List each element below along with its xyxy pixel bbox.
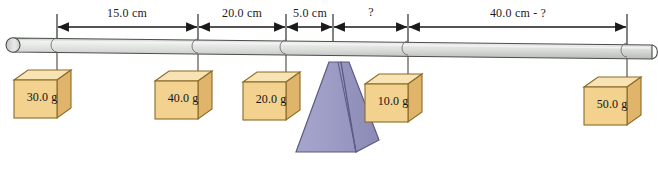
dimension-label-remainder: 40.0 cm - ? [490,6,546,21]
dimension-label-5cm: 5.0 cm [293,6,327,21]
rod-body [13,38,652,59]
mass-label-3: 20.0 g [256,92,287,107]
mass-label-4: 10.0 g [378,94,409,109]
dimension-label-15cm: 15.0 cm [107,6,147,21]
diagram-canvas [0,0,658,170]
rod-left-cap [6,38,20,52]
mass-label-5: 50.0 g [597,97,628,112]
mass-label-1: 30.0 g [27,90,58,105]
dimension-label-20cm: 20.0 cm [222,6,262,21]
mass-label-2: 40.0 g [168,91,199,106]
rod-right-cap [652,45,657,59]
dimension-label-unknown: ? [368,5,374,20]
physics-diagram: 15.0 cm 20.0 cm 5.0 cm ? 40.0 cm - ? 30.… [0,0,658,170]
balance-rod [6,38,657,59]
